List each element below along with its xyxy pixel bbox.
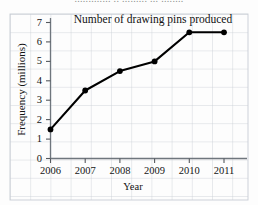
x-tick-label-2009: 2009 — [138, 166, 172, 177]
x-tick-label-2011: 2011 — [207, 166, 241, 177]
data-point-markers — [48, 29, 227, 132]
data-point-2009 — [152, 59, 158, 65]
x-tick-label-2007: 2007 — [68, 166, 102, 177]
y-tick-label-6: 6 — [30, 37, 42, 48]
y-tick-label-5: 5 — [30, 56, 42, 67]
data-line-series-1 — [51, 32, 225, 129]
data-point-2008 — [117, 68, 123, 74]
line-chart-figure: ............. .. ......... ... ........ — [0, 0, 258, 205]
y-tick-marks — [46, 23, 51, 159]
x-tick-label-2010: 2010 — [172, 166, 206, 177]
data-point-2011 — [221, 29, 227, 35]
data-point-2010 — [186, 29, 192, 35]
y-tick-label-4: 4 — [30, 76, 42, 87]
y-axis-title: Frequency (millions) — [16, 31, 27, 149]
y-tick-label-0: 0 — [30, 154, 42, 165]
x-tick-marks — [51, 159, 225, 164]
y-tick-label-3: 3 — [30, 95, 42, 106]
y-tick-label-7: 7 — [30, 18, 42, 29]
x-tick-label-2008: 2008 — [103, 166, 137, 177]
y-tick-label-2: 2 — [30, 115, 42, 126]
x-axis-title: Year — [88, 182, 178, 193]
chart-title: Number of drawing pins produced — [58, 14, 248, 26]
data-point-2006 — [48, 126, 54, 132]
x-tick-label-2006: 2006 — [34, 166, 68, 177]
y-tick-label-1: 1 — [30, 134, 42, 145]
data-point-2007 — [82, 88, 88, 94]
